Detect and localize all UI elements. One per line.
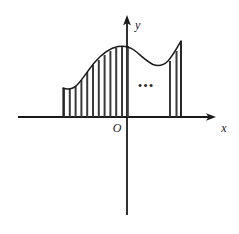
riemann-rectangle xyxy=(109,51,111,117)
riemann-rectangle xyxy=(86,72,88,117)
riemann-rectangle xyxy=(69,89,71,117)
riemann-rectangle xyxy=(92,65,94,117)
riemann-rectangle xyxy=(104,55,106,117)
riemann-rectangles xyxy=(63,41,182,117)
riemann-rectangle xyxy=(80,80,82,117)
riemann-rectangle xyxy=(169,61,171,117)
riemann-rectangle xyxy=(176,51,178,117)
ellipsis-annotation: ••• xyxy=(138,78,155,93)
riemann-rectangle xyxy=(98,60,100,117)
x-axis-label: x xyxy=(220,121,227,135)
riemann-rectangle xyxy=(115,48,117,117)
y-axis-label: y xyxy=(134,18,141,32)
riemann-rectangle xyxy=(75,86,77,117)
riemann-rectangle xyxy=(121,46,123,117)
figure-canvas: y x O ••• xyxy=(0,0,239,234)
origin-label: O xyxy=(113,121,122,135)
riemann-rectangle xyxy=(127,46,129,117)
riemann-sum-figure: y x O ••• xyxy=(0,0,239,234)
